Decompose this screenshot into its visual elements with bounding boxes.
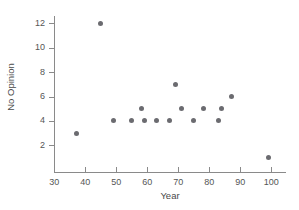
scatter-point [142,118,147,123]
scatter-point [173,82,178,87]
scatter-point [111,118,116,123]
scatter-point [216,118,221,123]
scatter-point [229,94,234,99]
scatter-point [266,155,271,160]
scatter-point [167,118,172,123]
scatter-point [98,21,103,26]
scatter-point [139,106,144,111]
scatter-point [191,118,196,123]
scatter-point [129,118,134,123]
scatter-point [219,106,224,111]
scatter-point [74,131,79,136]
scatter-point [179,106,184,111]
scatter-points-layer [0,0,299,210]
scatter-plot-figure: 24681012 30405060708090100 No Opinion Ye… [0,0,299,210]
scatter-point [154,118,159,123]
scatter-point [201,106,206,111]
